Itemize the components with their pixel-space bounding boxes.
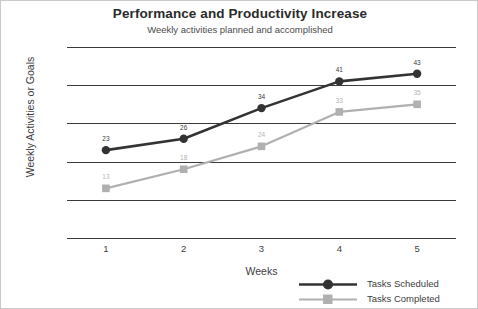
plot-area: 01020304050 Weekly Activities or Goals 1… — [67, 47, 456, 238]
x-axis-tick-label: 2 — [164, 243, 204, 254]
data-point-marker — [413, 70, 421, 78]
data-point-marker — [180, 134, 188, 142]
legend-circle-icon — [297, 277, 359, 292]
x-axis-tick-label: 3 — [242, 243, 282, 254]
data-point-value-label: 41 — [324, 66, 354, 73]
data-point-value-label: 18 — [169, 154, 199, 161]
x-axis-tick-label: 1 — [86, 243, 126, 254]
legend-label: Tasks Scheduled — [367, 278, 439, 289]
data-point-value-label: 23 — [91, 135, 121, 142]
data-point-marker — [102, 185, 110, 193]
x-axis-tick-label: 4 — [319, 243, 359, 254]
chart-title: Performance and Productivity Increase — [1, 6, 478, 21]
chart-legend: Tasks ScheduledTasks Completed — [297, 277, 467, 307]
gridline — [67, 238, 456, 239]
chart-figure: Performance and Productivity Increase We… — [0, 0, 478, 309]
data-point-value-label: 13 — [91, 173, 121, 180]
data-point-marker — [102, 146, 110, 154]
legend-square-icon — [297, 292, 359, 307]
data-point-marker — [180, 165, 188, 173]
y-axis-label: Weekly Activities or Goals — [24, 17, 36, 217]
data-point-marker — [413, 101, 421, 109]
data-point-marker — [336, 108, 344, 116]
data-point-value-label: 33 — [324, 97, 354, 104]
data-point-marker — [258, 143, 266, 151]
data-point-marker — [257, 104, 265, 112]
legend-item[interactable]: Tasks Completed — [297, 292, 467, 307]
x-axis-tick-label: 5 — [397, 243, 437, 254]
data-point-marker — [335, 77, 343, 85]
legend-label: Tasks Completed — [367, 293, 440, 304]
series-layer — [67, 47, 456, 238]
data-point-value-label: 34 — [247, 93, 277, 100]
data-point-value-label: 26 — [169, 124, 199, 131]
data-point-value-label: 43 — [402, 59, 432, 66]
chart-subtitle: Weekly activities planned and accomplish… — [1, 24, 478, 35]
x-axis-label: Weeks — [67, 265, 456, 277]
data-point-value-label: 24 — [247, 131, 277, 138]
data-point-value-label: 35 — [402, 89, 432, 96]
legend-item[interactable]: Tasks Scheduled — [297, 277, 467, 292]
